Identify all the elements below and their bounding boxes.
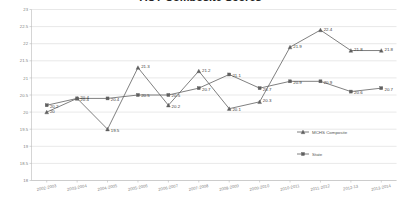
data-point-label: 21.8 — [384, 47, 393, 52]
data-point-marker — [228, 73, 231, 76]
x-tick-label: 2006-2007 — [158, 183, 179, 192]
data-point-label: 21.2 — [202, 68, 211, 73]
data-point-marker — [380, 87, 383, 90]
series-data-labels: 2020.419.521.320.221.220.120.321.922.421… — [50, 27, 394, 133]
y-tick-label: 18.5 — [20, 161, 29, 166]
y-tick-label: 21.5 — [20, 58, 29, 63]
data-point-label: 20.9 — [324, 80, 333, 85]
x-tick-label: 2013-2014 — [371, 183, 392, 192]
legend-label: MCHS Composite — [312, 130, 348, 135]
y-tick-label: 22 — [23, 41, 28, 46]
data-point-marker — [45, 104, 48, 107]
x-tick-label: 2011-2012 — [310, 183, 331, 192]
legend-label: State — [312, 152, 323, 157]
data-point-label: 20.4 — [111, 97, 120, 102]
y-tick-label: 19 — [23, 144, 28, 149]
data-point-label: 20.7 — [263, 87, 272, 92]
data-point-label: 20.2 — [172, 104, 181, 109]
data-point-marker — [106, 97, 109, 100]
data-point-label: 20.4 — [80, 97, 89, 102]
x-tick-label: 2009-2010 — [249, 183, 270, 192]
x-tick-label: 2003-2004 — [66, 183, 87, 192]
y-axis-tick-labels: 2322.52221.52120.52019.51918.518 — [20, 7, 29, 183]
data-point-marker — [76, 97, 79, 100]
legend-marker — [302, 153, 305, 156]
data-point-marker — [319, 28, 323, 32]
x-tick-label: 2008-2009 — [219, 183, 240, 192]
chart-container: ACT Composite Scores 2322.52221.52120.52… — [0, 0, 401, 210]
data-point-label: 20.2 — [50, 104, 59, 109]
chart-legend: MCHS CompositeState — [297, 130, 348, 157]
data-point-marker — [319, 80, 322, 83]
data-point-label: 20 — [50, 109, 55, 114]
x-axis-tick-labels: 2002-20032003-20042004-20052005-20062006… — [36, 183, 392, 192]
data-point-label: 21.8 — [354, 47, 363, 52]
data-point-label: 20.7 — [202, 87, 211, 92]
y-tick-label: 23 — [23, 7, 28, 12]
data-point-marker — [349, 90, 352, 93]
data-point-marker — [167, 94, 170, 97]
data-point-label: 20.6 — [354, 90, 363, 95]
y-tick-label: 20 — [23, 110, 28, 115]
data-point-label: 20.5 — [172, 93, 181, 98]
data-point-label: 20.1 — [232, 107, 241, 112]
data-point-marker — [197, 69, 201, 73]
line-chart-plot: 2322.52221.52120.52019.51918.518 2002-20… — [0, 0, 401, 210]
y-tick-label: 22.5 — [20, 24, 29, 29]
data-point-marker — [258, 87, 261, 90]
data-point-marker — [288, 45, 292, 49]
data-point-label: 19.5 — [111, 128, 120, 133]
data-point-label: 22.4 — [324, 27, 333, 32]
data-point-label: 20.9 — [293, 80, 302, 85]
y-tick-label: 20.5 — [20, 93, 29, 98]
data-point-label: 20.5 — [141, 93, 150, 98]
data-point-label: 20.7 — [384, 87, 393, 92]
data-point-marker — [197, 87, 200, 90]
y-tick-label: 18 — [23, 178, 28, 183]
data-point-marker — [289, 80, 292, 83]
data-point-label: 21.3 — [141, 64, 150, 69]
data-point-label: 21.9 — [293, 44, 302, 49]
x-tick-label: 2010-2011 — [280, 183, 301, 192]
data-point-marker — [136, 94, 139, 97]
y-tick-label: 21 — [23, 76, 28, 81]
y-tick-label: 19.5 — [20, 127, 29, 132]
x-tick-label: 2007-2008 — [188, 183, 209, 192]
x-tick-label: 2002-2003 — [36, 183, 57, 192]
x-tick-label: 2012-13 — [343, 183, 360, 191]
data-point-marker — [136, 66, 140, 70]
data-point-label: 20.3 — [263, 98, 272, 103]
x-tick-label: 2004-2005 — [97, 183, 118, 192]
x-tick-label: 2005-2006 — [127, 183, 148, 192]
data-point-label: 21.1 — [232, 73, 241, 78]
